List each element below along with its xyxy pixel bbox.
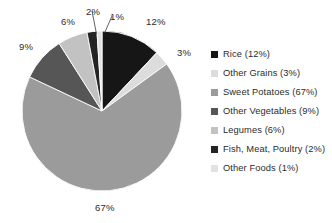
pie-svg bbox=[0, 0, 205, 223]
legend-item[interactable]: Rice (12%) bbox=[211, 45, 332, 64]
chart-legend: Rice (12%)Other Grains (3%)Sweet Potatoe… bbox=[211, 45, 332, 178]
pie-slice-value-label: 67% bbox=[95, 203, 115, 213]
pie-slice-value-label: 12% bbox=[146, 17, 166, 27]
legend-swatch-icon bbox=[211, 146, 218, 153]
legend-swatch-icon bbox=[211, 70, 218, 77]
pie-slices-group bbox=[22, 31, 182, 191]
legend-swatch-icon bbox=[211, 165, 218, 172]
legend-swatch-icon bbox=[211, 89, 218, 96]
legend-swatch-icon bbox=[211, 51, 218, 58]
pie-slice-value-label: 9% bbox=[19, 42, 33, 52]
legend-item-label: Legumes (6%) bbox=[223, 126, 285, 135]
legend-item-label: Other Vegetables (9%) bbox=[223, 107, 319, 116]
legend-item-label: Fish, Meat, Poultry (2%) bbox=[223, 145, 325, 154]
pie-slice-value-label: 3% bbox=[177, 48, 191, 58]
legend-item[interactable]: Fish, Meat, Poultry (2%) bbox=[211, 140, 332, 159]
legend-item-label: Rice (12%) bbox=[223, 50, 270, 59]
legend-item-label: Other Foods (1%) bbox=[223, 164, 299, 173]
pie-slice-value-label: 2% bbox=[86, 7, 100, 17]
pie-slice-value-label: 6% bbox=[61, 17, 75, 27]
legend-swatch-icon bbox=[211, 108, 218, 115]
legend-item-label: Sweet Potatoes (67%) bbox=[223, 88, 318, 97]
pie-chart-figure: 12%3%67%9%6%2%1% Rice (12%)Other Grains … bbox=[0, 0, 332, 223]
legend-item[interactable]: Other Grains (3%) bbox=[211, 64, 332, 83]
legend-item[interactable]: Other Vegetables (9%) bbox=[211, 102, 332, 121]
pie-plot-area: 12%3%67%9%6%2%1% bbox=[0, 0, 205, 223]
legend-item[interactable]: Sweet Potatoes (67%) bbox=[211, 83, 332, 102]
legend-item[interactable]: Legumes (6%) bbox=[211, 121, 332, 140]
pie-slice-value-label: 1% bbox=[110, 12, 124, 22]
legend-swatch-icon bbox=[211, 127, 218, 134]
legend-item[interactable]: Other Foods (1%) bbox=[211, 159, 332, 178]
legend-item-label: Other Grains (3%) bbox=[223, 69, 300, 78]
